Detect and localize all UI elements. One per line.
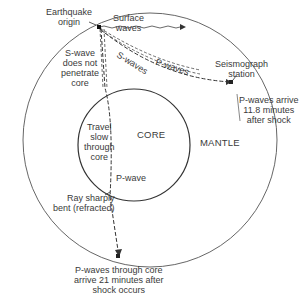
surface-wave-arrow-icon — [180, 24, 186, 30]
surface-waves-label: Surface waves — [113, 13, 144, 33]
core-label: CORE — [137, 130, 165, 140]
s-wave-no-core-label: S-wave does not penetrate core — [61, 48, 99, 88]
p-arrive-label: P-waves arrive 11.8 minutes after shock — [239, 95, 299, 125]
p-core-arrival-label: P-waves through core arrive 21 minutes a… — [74, 265, 164, 295]
earthquake-origin-marker — [97, 25, 101, 29]
refracted-label: Ray sharply bent (refracted) — [53, 193, 115, 213]
travel-slow-label: Travel slow through core — [84, 122, 115, 162]
core-arrival-marker — [116, 254, 120, 258]
seismograph-station-marker — [229, 80, 233, 84]
s-wave-path — [100, 28, 200, 70]
seismic-wave-diagram — [0, 0, 299, 297]
earthquake-origin-label: Earthquake origin — [46, 7, 92, 27]
mantle-label: MANTLE — [200, 138, 240, 148]
seismograph-station-label: Seismograph station — [215, 59, 268, 79]
p-wave-label: P-wave — [116, 173, 146, 183]
